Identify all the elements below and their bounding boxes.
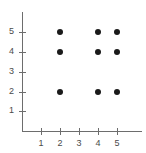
x-tick-label-1: 1	[34, 139, 48, 148]
scatter-plot-figure: 12345 12345	[0, 0, 146, 153]
data-point	[95, 89, 101, 95]
x-tick-4	[98, 128, 99, 135]
data-point	[114, 29, 120, 35]
x-tick-3	[79, 128, 80, 135]
x-tick-label-4: 4	[91, 139, 105, 148]
x-tick-2	[60, 128, 61, 135]
x-tick-1	[41, 128, 42, 135]
data-point	[114, 49, 120, 55]
y-tick-label-4: 4	[0, 47, 14, 56]
y-tick-3	[19, 72, 26, 73]
data-point	[95, 49, 101, 55]
x-tick-label-5: 5	[110, 139, 124, 148]
x-tick-label-2: 2	[53, 139, 67, 148]
x-tick-label-3: 3	[72, 139, 86, 148]
data-point	[95, 29, 101, 35]
y-tick-1	[19, 111, 26, 112]
y-tick-2	[19, 92, 26, 93]
data-point	[57, 29, 63, 35]
x-tick-5	[117, 128, 118, 135]
y-tick-4	[19, 52, 26, 53]
y-tick-label-5: 5	[0, 27, 14, 36]
y-tick-5	[19, 32, 26, 33]
y-tick-label-2: 2	[0, 87, 14, 96]
data-point	[114, 89, 120, 95]
data-point	[57, 89, 63, 95]
x-axis-line	[22, 131, 142, 132]
y-tick-label-3: 3	[0, 67, 14, 76]
y-tick-label-1: 1	[0, 106, 14, 115]
data-point	[57, 49, 63, 55]
